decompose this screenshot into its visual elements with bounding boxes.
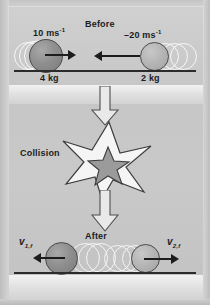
flow-arrow-down-bottom [90,190,120,232]
after-left-velocity-label: v1,f [19,236,32,249]
frame-edge-right [203,0,210,305]
after-left-velocity-subscript: 1,f [25,243,33,249]
before-right-velocity-arrow-shaft [102,55,140,57]
before-title: Before [85,19,115,29]
after-title: After [85,231,107,241]
before-ball-right [140,42,169,71]
collision-starburst [62,120,154,200]
before-ball-left [29,39,63,73]
before-left-velocity-exponent: -1 [60,27,66,33]
before-right-velocity-arrow-head [94,51,102,61]
after-right-velocity-arrow-shaft [144,258,172,260]
before-right-velocity-value: –20 [124,30,140,40]
after-floor-band [9,275,203,300]
after-right-velocity-subscript: 2,f [173,243,181,249]
ghost-trail-right-3 [170,43,197,70]
before-right-velocity-exponent: -1 [156,29,162,35]
after-left-velocity-arrow-shaft [41,257,65,259]
before-left-velocity-label: 10 ms-1 [33,27,65,38]
after-left-velocity-arrow-head [33,253,41,263]
physics-collision-diagram: Before 10 ms-1 –20 ms-1 4 kg 2 kg Collis… [0,0,210,305]
collision-title: Collision [20,148,60,158]
after-ground-line [14,272,196,274]
before-left-velocity-arrow-head [68,50,76,60]
after-right-velocity-arrow-head [171,254,179,264]
before-ground-line [14,70,196,72]
before-left-velocity-value: 10 [33,28,43,38]
before-right-velocity-unit: ms [142,30,155,40]
before-left-mass-label: 4 kg [40,73,59,83]
before-left-velocity-arrow-shaft [45,54,69,56]
before-right-velocity-label: –20 ms-1 [124,29,162,40]
before-left-velocity-unit: ms [46,28,59,38]
after-right-velocity-label: v2,f [167,236,180,249]
before-right-mass-label: 2 kg [141,73,160,83]
